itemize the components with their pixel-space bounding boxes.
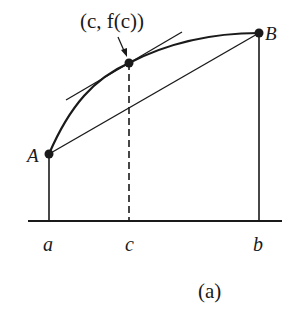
axis-label-b: b (253, 233, 263, 255)
point-c (125, 59, 134, 68)
axis-label-a: a (43, 233, 53, 255)
axis-label-c: c (125, 233, 134, 255)
tangent-line (66, 32, 182, 100)
arrow-head-icon (121, 48, 127, 57)
point-c-label: (c, f(c)) (80, 9, 144, 33)
mean-value-theorem-figure: (c, f(c)) A B a c b (a) (0, 0, 288, 309)
diagram-canvas: (c, f(c)) A B a c b (a) (0, 0, 288, 309)
point-b (255, 29, 264, 38)
point-a (45, 150, 54, 159)
label-point-a: A (25, 145, 39, 166)
figure-caption: (a) (198, 279, 221, 303)
label-point-b: B (265, 23, 277, 44)
